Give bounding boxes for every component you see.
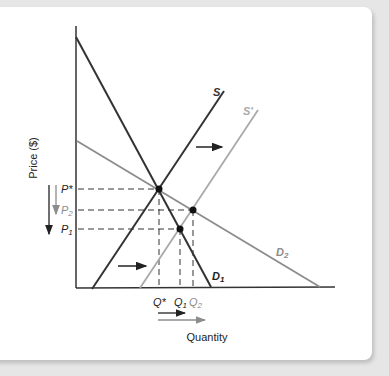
equilibrium-point-initial: [156, 186, 163, 193]
supply-demand-diagram: S S' D1 D2 P* P2 P1 Q* Q1 Q2 Price ($) Q…: [0, 0, 389, 376]
label-supply-s-prime: S': [243, 105, 253, 117]
y-axis-title: Price ($): [27, 137, 39, 179]
quantity-label-q2: Q2: [189, 296, 203, 310]
label-demand-d1: D1: [212, 270, 225, 284]
price-label-p2: P2: [61, 204, 73, 218]
label-demand-d2: D2: [276, 246, 289, 260]
price-label-p1: P1: [61, 223, 73, 237]
equilibrium-point-p2: [190, 207, 197, 214]
quantity-label-q-star: Q*: [153, 296, 167, 308]
dashed-guides: [78, 189, 193, 288]
x-axis-title: Quantity: [187, 331, 228, 343]
x-axis: [76, 287, 335, 288]
quantity-label-q1: Q1: [174, 296, 187, 310]
demand-curve-d1: [76, 37, 211, 287]
equilibrium-point-p1: [177, 226, 184, 233]
price-label-p-star: P*: [61, 183, 73, 195]
supply-curve-s-prime: [140, 110, 258, 288]
label-supply-s: S: [213, 86, 221, 98]
